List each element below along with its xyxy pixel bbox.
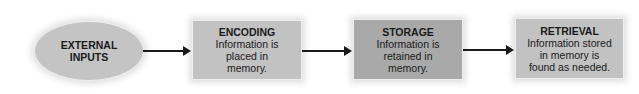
node-description: memory. [227, 62, 267, 74]
node-title: INPUTS [70, 51, 109, 63]
storage-node: STORAGE Information is retained in memor… [353, 19, 463, 80]
node-description: Information is [376, 38, 439, 50]
retrieval-node: RETRIEVAL Information stored in memory i… [515, 18, 624, 79]
encoding-node: ENCODING Information is placed in memory… [192, 20, 302, 80]
node-title: RETRIEVAL [540, 25, 599, 37]
node-description: placed in [226, 50, 268, 62]
node-description: retained in [383, 50, 432, 62]
node-description: in memory is [540, 49, 600, 61]
node-description: memory. [388, 62, 428, 74]
arrow-external-to-encoding [143, 50, 189, 52]
node-description: Information is [215, 38, 278, 50]
node-title: EXTERNAL [61, 39, 118, 51]
arrow-encoding-to-storage [302, 50, 350, 52]
node-title: ENCODING [219, 26, 276, 38]
node-title: STORAGE [382, 26, 434, 38]
node-description: found as needed. [529, 61, 610, 73]
arrow-storage-to-retrieval [463, 49, 512, 51]
external-inputs-node: EXTERNAL INPUTS [34, 21, 144, 81]
node-description: Information stored [527, 37, 612, 49]
